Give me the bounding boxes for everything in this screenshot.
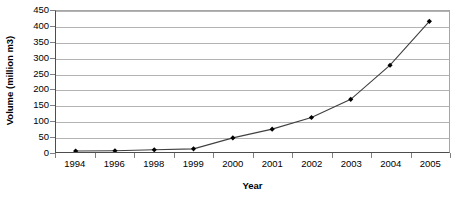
plot-area: [55, 10, 450, 153]
x-axis-tick-label: 2001: [262, 159, 283, 169]
y-axis-tick-labels: 050100150200250300350400450: [20, 10, 53, 153]
x-axis-tick-label: 2005: [420, 159, 441, 169]
data-point-marker: [230, 135, 235, 140]
x-axis-tick: [332, 153, 333, 158]
y-axis-tick-label: 200: [33, 85, 49, 95]
x-axis-tick: [134, 153, 135, 158]
x-axis-tick-label: 2002: [301, 159, 322, 169]
x-axis-tick: [450, 153, 451, 158]
x-axis-tick-label: 1996: [104, 159, 125, 169]
y-axis-tick-label: 100: [33, 116, 49, 126]
x-axis-tick: [174, 153, 175, 158]
x-axis-tick-labels: 1994199619981999200020012002200320042005: [55, 159, 450, 173]
y-axis-title-text: Volume (million m3): [5, 35, 16, 125]
series-volume: [56, 11, 449, 152]
x-axis-title: Year: [55, 180, 450, 191]
data-point-marker: [309, 115, 314, 120]
x-axis-tick-label: 1998: [143, 159, 164, 169]
line-chart: Volume (million m3) 05010015020025030035…: [0, 0, 462, 206]
y-axis-tick-label: 300: [33, 53, 49, 63]
x-axis-tick-label: 1999: [183, 159, 204, 169]
x-axis-tick: [95, 153, 96, 158]
x-axis-tick: [371, 153, 372, 158]
x-axis-tick: [55, 153, 56, 158]
y-axis-tick-label: 250: [33, 69, 49, 79]
y-axis-tick-label: 350: [33, 37, 49, 47]
x-axis-tick: [213, 153, 214, 158]
y-axis-tick-label: 450: [33, 5, 49, 15]
data-point-marker: [270, 127, 275, 132]
data-point-marker: [152, 147, 157, 152]
x-axis-tick: [292, 153, 293, 158]
x-axis-tick-label: 2003: [341, 159, 362, 169]
y-axis-title: Volume (million m3): [0, 0, 20, 160]
data-point-marker: [191, 146, 196, 151]
y-axis-tick-label: 50: [38, 132, 49, 142]
x-axis-tick-label: 2004: [380, 159, 401, 169]
series-line: [76, 21, 430, 151]
y-axis-tick-label: 0: [44, 148, 49, 158]
y-axis-tick-label: 150: [33, 101, 49, 111]
x-axis-tick-label: 1994: [64, 159, 85, 169]
x-axis-tick: [253, 153, 254, 158]
x-axis-tick: [411, 153, 412, 158]
x-axis-tick-label: 2000: [222, 159, 243, 169]
y-axis-tick-label: 400: [33, 21, 49, 31]
